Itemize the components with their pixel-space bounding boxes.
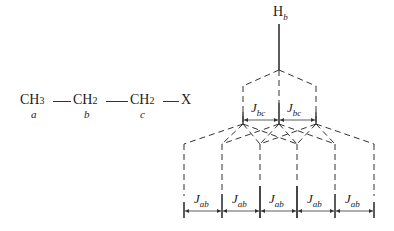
jab-label-5: Jab <box>345 191 360 209</box>
jbc-label-2: Jbc <box>287 100 301 118</box>
jab-label-2: Jab <box>232 191 247 209</box>
proton-label: Hb <box>273 4 288 22</box>
jab-label-1: Jab <box>194 191 209 209</box>
jbc-label-1: Jbc <box>251 100 265 118</box>
jab-label-3: Jab <box>269 191 284 209</box>
jab-label-4: Jab <box>307 191 322 209</box>
